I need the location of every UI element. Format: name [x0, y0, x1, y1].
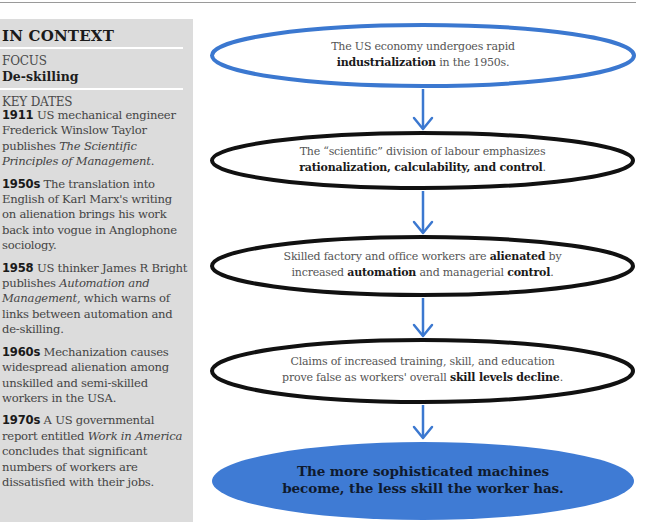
- plain-text: .: [560, 371, 563, 384]
- plain-text: by: [545, 250, 561, 263]
- text-line: Skilled factory and office workers are a…: [210, 249, 635, 265]
- text-line: The US economy undergoes rapid: [210, 39, 636, 55]
- arrow-down-icon: [414, 191, 432, 233]
- flow-node-text: The US economy undergoes rapidindustrial…: [210, 39, 636, 71]
- text-line: increased automation and managerial cont…: [210, 265, 635, 281]
- conclusion-text: The more sophisticated machinesbecome, t…: [210, 463, 636, 497]
- arrow-down-icon: [414, 89, 432, 129]
- emphasis-text: industrialization: [337, 56, 436, 69]
- flow-node-text: The “scientific” division of labour emph…: [210, 144, 635, 176]
- plain-text: Claims of increased training, skill, and…: [290, 355, 554, 368]
- flow-node-text: Skilled factory and office workers are a…: [210, 249, 635, 281]
- emphasis-text: The more sophisticated machines: [297, 463, 549, 479]
- text-line: Claims of increased training, skill, and…: [210, 354, 635, 370]
- emphasis-text: become, the less skill the worker has.: [282, 480, 563, 496]
- text-line: industrialization in the 1950s.: [210, 55, 636, 71]
- plain-text: The US economy undergoes rapid: [331, 40, 515, 53]
- plain-text: .: [543, 161, 546, 174]
- text-line: The more sophisticated machines: [210, 463, 636, 480]
- plain-text: The “scientific” division of labour emph…: [300, 145, 546, 158]
- text-line: rationalization, calculability, and cont…: [210, 160, 635, 176]
- plain-text: .: [550, 266, 553, 279]
- emphasis-text: control: [507, 266, 550, 279]
- plain-text: in the 1950s.: [436, 56, 509, 69]
- arrow-down-icon: [414, 298, 432, 336]
- plain-text: increased: [291, 266, 347, 279]
- emphasis-text: alienated: [490, 250, 546, 263]
- emphasis-text: skill levels decline: [450, 371, 560, 384]
- plain-text: prove false as workers' overall: [282, 371, 450, 384]
- text-line: become, the less skill the worker has.: [210, 480, 636, 497]
- plain-text: and managerial: [416, 266, 507, 279]
- text-line: prove false as workers' overall skill le…: [210, 370, 635, 386]
- emphasis-text: rationalization, calculability, and cont…: [299, 161, 542, 174]
- plain-text: Skilled factory and office workers are: [284, 250, 490, 263]
- text-line: The “scientific” division of labour emph…: [210, 144, 635, 160]
- flow-node-text: Claims of increased training, skill, and…: [210, 354, 635, 386]
- arrow-down-icon: [414, 405, 432, 438]
- emphasis-text: automation: [347, 266, 416, 279]
